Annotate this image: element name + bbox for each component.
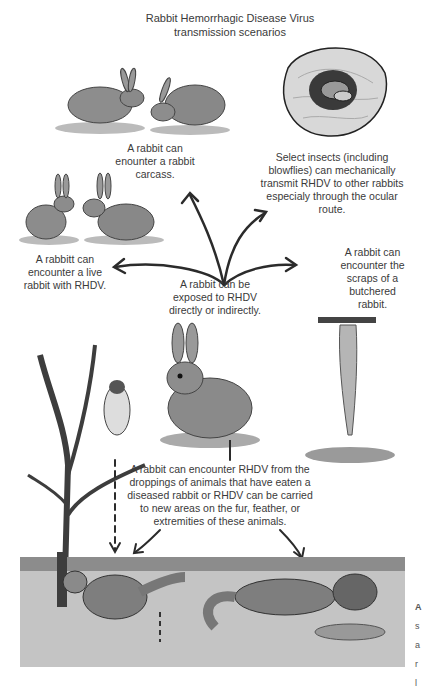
text-line: directly or indirectly.	[150, 304, 280, 317]
text-line: A rabbit can	[95, 142, 215, 155]
center-text: A rabbit can be exposed to RHDV directly…	[150, 278, 280, 317]
text-fragment: s	[415, 617, 423, 636]
text-line: encounter the	[325, 259, 420, 272]
rabbit-carcass-illustration	[50, 60, 230, 135]
text-fragment: r	[415, 655, 423, 674]
fly-in-eye-illustration	[273, 38, 393, 143]
predators-illustration	[20, 552, 405, 677]
text-fragment: l	[415, 674, 423, 689]
text-line: A rabbit can be	[150, 278, 280, 291]
title-line: Rabbit Hemorrhagic Disease Virus	[110, 11, 350, 25]
bottom-arrows	[80, 440, 320, 565]
text-line: enounter a rabbit	[95, 155, 215, 168]
text-line: blowflies) can mechanically	[248, 164, 416, 177]
text-line: butchered	[325, 285, 420, 298]
scenario-butchered-text: A rabbit can encounter the scraps of a b…	[325, 246, 420, 311]
text-line: exposed to RHDV	[150, 291, 280, 304]
text-fragment: A	[415, 598, 423, 617]
title-line: transmission scenarios	[110, 25, 350, 39]
text-line: scraps of a	[325, 272, 420, 285]
diagram-title: Rabbit Hemorrhagic Disease Virus transmi…	[110, 11, 350, 39]
text-line: A rabbit can	[325, 246, 420, 259]
text-line: Select insects (including	[248, 151, 416, 164]
center-rabbit-illustration	[150, 318, 260, 453]
text-fragment: a	[415, 636, 423, 655]
cutoff-side-text: A s a r l	[415, 598, 423, 689]
text-line: rabbit.	[325, 298, 420, 311]
